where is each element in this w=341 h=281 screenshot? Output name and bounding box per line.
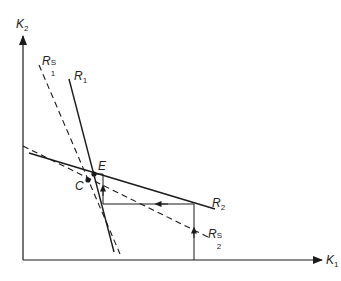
r2s-label: RS2	[208, 228, 224, 240]
r1s-label: RS1	[42, 55, 58, 67]
r1-label: R1	[74, 70, 87, 85]
equilibrium-point-e	[91, 171, 96, 176]
r2s-dashed-line	[23, 146, 210, 238]
reaction-function-diagram: K2 K1 RS1 R1 R2 RS2 E C	[0, 0, 341, 281]
r2-label: R2	[212, 197, 225, 212]
point-e-label: E	[98, 160, 106, 172]
x-axis-label: K1	[326, 254, 338, 269]
r1-line	[69, 79, 114, 252]
r2-line	[29, 153, 215, 209]
diagram-canvas	[0, 0, 341, 281]
point-c	[85, 177, 90, 182]
y-axis-label: K2	[16, 18, 28, 33]
point-c-label: C	[75, 180, 84, 192]
